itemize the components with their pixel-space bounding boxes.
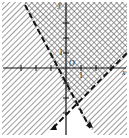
x-unit-label: 1: [79, 72, 83, 80]
y-unit-label: 1: [59, 49, 63, 57]
origin-label: O: [69, 60, 75, 68]
x-axis-label: x: [122, 69, 126, 77]
inequality-graph: [0, 0, 129, 138]
y-axis-label: y: [58, 1, 62, 9]
